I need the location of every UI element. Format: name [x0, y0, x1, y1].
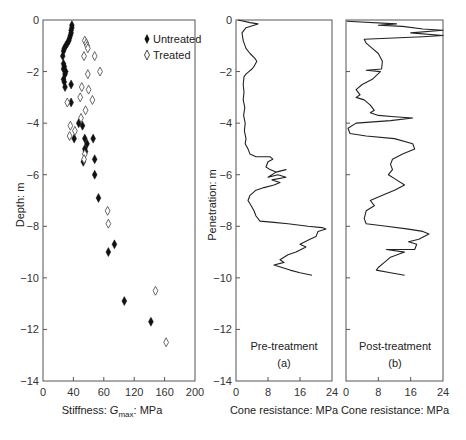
treated-point — [90, 95, 95, 104]
x-tick-label: 0 — [343, 386, 349, 398]
post-treatment-x-axis: 081624 — [343, 377, 449, 398]
y-tick-label: −6 — [219, 169, 232, 181]
treated-point — [98, 67, 103, 76]
y-tick-label: 0 — [33, 14, 39, 26]
treated-point — [82, 52, 87, 61]
pre-treatment-x-axis: 081624 — [233, 377, 338, 398]
untreated-marker-icon — [145, 34, 150, 44]
stiffness-y-axis-label: Depth: m — [14, 183, 26, 228]
x-tick-label: 24 — [326, 386, 338, 398]
x-tick-label: 8 — [375, 386, 381, 398]
treated-point — [65, 98, 70, 107]
x-tick-label: 40 — [67, 386, 79, 398]
untreated-point — [106, 248, 111, 257]
x-tick-label: 160 — [155, 386, 173, 398]
pre-treatment-panel: 0−2−4−6−8−10−12−14 081624 Pre-treatment … — [206, 14, 339, 416]
post-treatment-cone-resistance-curve — [347, 21, 443, 275]
figure: 0−2−4−6−8−10−12−14 04060120160200 Untrea… — [0, 0, 466, 440]
untreated-point — [122, 297, 127, 306]
panel-label-a: (a) — [277, 357, 290, 369]
stiffness-x-axis: 04060120160200 — [40, 377, 204, 398]
x-tick-label: 60 — [98, 386, 110, 398]
y-tick-label: −10 — [20, 272, 39, 284]
pre-treatment-cone-resistance-curve — [238, 20, 326, 275]
y-tick-label: −4 — [219, 117, 232, 129]
penetration-y-axis-label: Penetration: m — [206, 169, 218, 241]
treated-point — [79, 83, 84, 92]
treated-point — [67, 132, 72, 141]
panel-label-b: (b) — [388, 357, 401, 369]
y-tick-label: −4 — [26, 117, 39, 129]
y-tick-label: −10 — [213, 272, 232, 284]
treated-point — [86, 85, 91, 94]
stiffness-x-axis-label: Stiffness: Gmax: MPa — [62, 404, 163, 419]
treated-point — [153, 286, 158, 295]
treated-point — [68, 121, 73, 130]
x-tick-label: 16 — [405, 386, 417, 398]
treated-point — [105, 206, 110, 215]
x-tick-label: 8 — [265, 386, 271, 398]
untreated-point — [96, 193, 101, 202]
y-tick-label: −14 — [213, 375, 232, 387]
x-tick-label: 0 — [233, 386, 239, 398]
untreated-point — [92, 155, 97, 164]
y-tick-label: −6 — [26, 169, 39, 181]
untreated-point — [112, 240, 117, 249]
x-tick-label: 0 — [40, 386, 46, 398]
y-tick-label: −12 — [213, 323, 232, 335]
pre-treatment-x-axis-label: Cone resistance: MPa — [230, 404, 339, 416]
x-tick-label: 24 — [437, 386, 449, 398]
post-treatment-plot-frame — [346, 20, 443, 381]
treated-marker-icon — [145, 50, 150, 60]
y-tick-label: −8 — [26, 220, 39, 232]
untreated-point — [91, 134, 96, 143]
untreated-point — [92, 170, 97, 179]
y-tick-label: −2 — [26, 66, 39, 78]
pre-treatment-caption: Pre-treatment — [250, 340, 317, 352]
pre-treatment-plot-frame — [236, 20, 332, 381]
y-tick-label: 0 — [226, 14, 232, 26]
x-tick-label: 16 — [294, 386, 306, 398]
untreated-point — [149, 317, 154, 326]
untreated-point — [72, 134, 77, 143]
y-tick-label: −14 — [20, 375, 39, 387]
post-treatment-y-ticks — [346, 72, 350, 330]
stiffness-panel: 0−2−4−6−8−10−12−14 04060120160200 Untrea… — [14, 14, 204, 419]
treated-point — [92, 52, 97, 61]
treated-point — [78, 93, 83, 102]
legend: Untreated Treated — [145, 33, 202, 61]
legend-untreated-label: Untreated — [153, 33, 201, 45]
untreated-point — [69, 80, 74, 89]
x-tick-label: 120 — [125, 386, 143, 398]
y-tick-label: −12 — [20, 323, 39, 335]
treated-point — [83, 106, 88, 115]
treated-point — [73, 126, 78, 135]
treated-point — [106, 219, 111, 228]
x-tick-label: 200 — [186, 386, 204, 398]
treated-point — [164, 338, 169, 347]
y-tick-label: −8 — [219, 220, 232, 232]
treated-point — [85, 70, 90, 79]
y-tick-label: −2 — [219, 66, 232, 78]
post-treatment-caption: Post-treatment — [359, 340, 431, 352]
stiffness-data-points — [60, 21, 168, 347]
legend-treated-label: Treated — [153, 49, 191, 61]
post-treatment-panel: 081624 Post-treatment (b) Cone resistanc… — [341, 20, 450, 416]
post-treatment-x-axis-label: Cone resistance: MPa — [341, 404, 450, 416]
